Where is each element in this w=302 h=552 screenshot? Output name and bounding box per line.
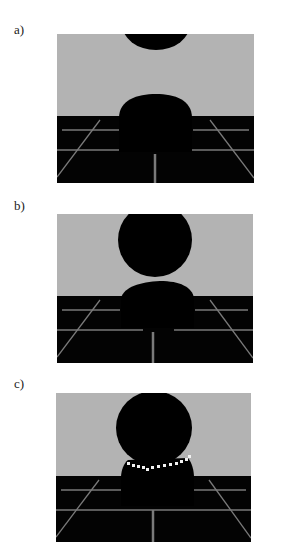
panel-c [56, 391, 251, 542]
panel-b [57, 203, 253, 363]
drop [116, 391, 192, 465]
falling-drop-top [122, 0, 190, 50]
figure-canvas [0, 0, 302, 552]
liquid-blob [121, 281, 194, 328]
panel-a [57, 0, 254, 183]
drop [118, 203, 192, 277]
liquid-dome [119, 94, 192, 152]
